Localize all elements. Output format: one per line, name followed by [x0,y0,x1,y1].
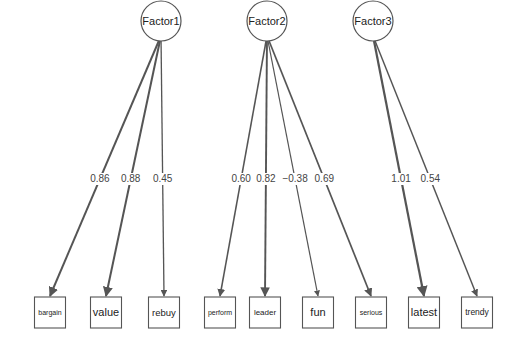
loading-arrow-f1-value [106,41,160,296]
indicator-label: serious [360,309,383,316]
loading-value-latest: 1.01 [391,173,411,184]
loading-paths [50,41,477,296]
loading-value-leader: 0.82 [256,173,276,184]
loading-value-serious: 0.69 [315,173,335,184]
indicator-label: latest [411,306,437,318]
loading-value-fun: −0.38 [282,173,308,184]
loading-arrow-f3-latest [374,41,424,296]
loading-arrow-f2-serious [269,41,371,296]
loading-arrow-f2-perform [220,41,266,296]
loading-arrow-f1-rebuy [161,41,164,296]
indicator-label: fun [310,306,325,318]
loading-value-rebuy: 0.45 [153,173,173,184]
indicator-label: bargain [38,309,61,317]
indicator-label: trendy [465,307,489,317]
factor-label: Factor2 [248,15,285,27]
factor-label: Factor1 [142,15,179,27]
loading-value-perform: 0.60 [231,173,251,184]
factor-label: Factor3 [354,15,391,27]
indicator-label: rebuy [152,307,176,318]
loading-arrow-f3-trendy [375,41,477,296]
loading-arrow-f2-leader [265,41,267,296]
indicator-label: leader [254,308,277,317]
loading-arrow-f2-fun [268,41,318,296]
loading-value-bargain: 0.86 [90,173,110,184]
loading-labels: 0.860.880.450.600.82−0.380.691.010.54 [87,173,443,185]
indicator-label: value [93,306,119,318]
loading-value-trendy: 0.54 [421,173,441,184]
observed-indicators: bargainvaluerebuyperformleaderfunserious… [35,297,493,328]
loading-arrow-f1-bargain [50,41,159,296]
indicator-label: perform [208,309,232,317]
loading-value-value: 0.88 [121,173,141,184]
factor-path-diagram: 0.860.880.450.600.82−0.380.691.010.54 Fa… [0,0,521,350]
latent-factors: Factor1Factor2Factor3 [141,1,393,41]
